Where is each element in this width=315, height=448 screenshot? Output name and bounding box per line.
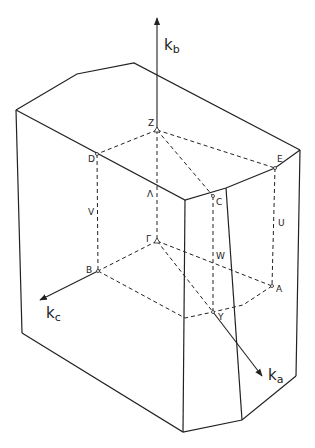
point-label-z: Z [148, 119, 154, 128]
point-label-a: A [276, 285, 282, 294]
point-label-c: C [216, 198, 222, 207]
brillouin-zone-diagram: kb kc ka Z D E C Γ B A Y Λ V W U [0, 0, 315, 448]
kc-axis [40, 271, 98, 300]
ka-axis-label: ka [268, 368, 283, 385]
kc-axis-label: kc [46, 306, 61, 323]
line-label-w: W [216, 252, 225, 261]
point-label-e: E [277, 155, 283, 164]
kb-axis-label: kb [164, 38, 180, 55]
line-label-v: V [88, 208, 94, 217]
solid-edges [16, 63, 300, 432]
line-label-u: U [278, 219, 285, 228]
point-label-y: Y [218, 313, 224, 322]
point-label-d: D [88, 155, 95, 164]
point-markers [96, 127, 277, 314]
point-label-gamma: Γ [146, 235, 151, 244]
dashed-edges [97, 130, 275, 318]
line-label-lambda: Λ [147, 190, 153, 199]
point-label-b: B [86, 266, 92, 275]
